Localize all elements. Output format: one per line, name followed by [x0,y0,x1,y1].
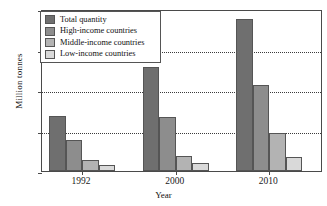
y-tick-mark [38,133,42,134]
bar [143,67,160,171]
legend-swatch-middle-income-countries [45,38,55,47]
x-axis-title: Year [0,190,327,200]
bar [159,117,176,171]
gridline [42,92,321,93]
legend-item: High-income countries [43,26,157,38]
legend-label: High-income countries [60,26,137,36]
legend-item: Middle-income countries [43,37,157,49]
bar [269,133,286,171]
x-tick-mark [82,171,83,175]
legend-label: Middle-income countries [60,38,144,48]
bar [176,156,193,171]
legend-swatch-low-income-countries [45,50,55,59]
bar [192,163,209,171]
x-tick-label: 2010 [259,176,278,186]
chart-legend: Total quantity High-income countries Mid… [40,11,161,63]
y-tick-mark [38,92,42,93]
legend-swatch-high-income-countries [45,27,55,36]
bar [253,85,270,171]
bar [99,165,116,171]
bar [236,19,253,171]
bar [82,160,99,171]
y-axis-title: Million tonnes [14,21,24,141]
x-tick-mark [176,171,177,175]
bar [66,140,83,171]
legend-item: Low-income countries [43,49,157,61]
x-tick-label: 2000 [165,176,184,186]
legend-label: Low-income countries [60,49,136,59]
x-tick-mark [269,171,270,175]
legend-swatch-total-quantity [45,15,55,24]
legend-label: Total quantity [60,15,107,25]
y-tick-mark [38,173,42,174]
bar [49,116,66,171]
legend-item: Total quantity [43,14,157,26]
x-tick-label: 1992 [72,176,91,186]
chart-figure: Million tonnes 0.00.51.01.52.0 199220002… [0,0,327,206]
bar [286,157,303,171]
